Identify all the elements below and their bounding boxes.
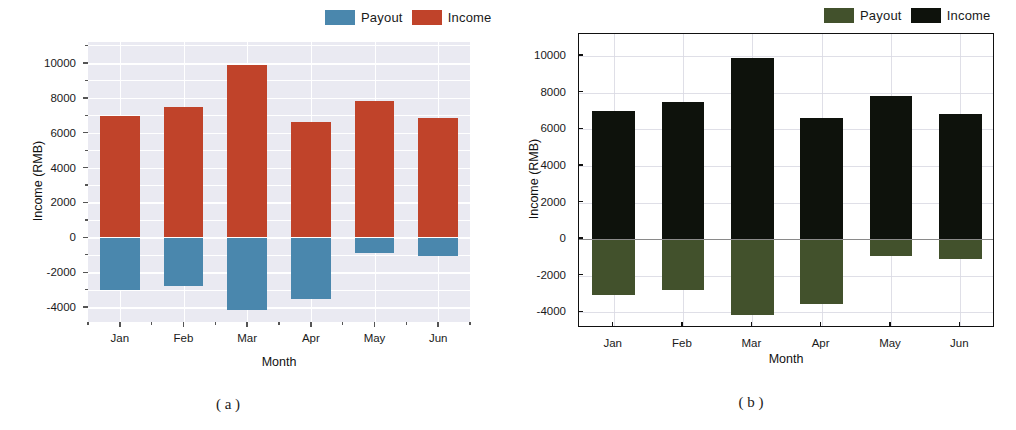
y-tick-mark [578,237,583,238]
y-tick-label: 2000 [50,196,76,208]
y-tick-mark [578,274,583,275]
legend-label-payout: Payout [860,9,902,22]
x-tick-label: Mar [237,332,257,344]
x-tick-mark-minor [215,322,216,325]
x-tick-label: Mar [741,337,761,349]
x-tick-mark-minor [406,322,407,325]
y-tick-label: -2000 [47,266,76,278]
x-tick-mark [681,322,682,327]
legend-b: PayoutIncome [824,8,991,23]
caption-a: ( a ) [216,396,240,413]
gridline-horizontal [579,93,993,94]
y-tick-label: 8000 [540,86,566,98]
y-tick-mark [83,132,88,133]
bar-income-may [870,96,913,239]
gridline-horizontal [88,150,470,151]
zero-baseline [88,237,470,238]
y-tick-mark-minor [85,80,88,81]
y-tick-mark [83,202,88,203]
y-tick-label: -2000 [537,269,566,281]
x-tick-mark [374,322,375,327]
x-tick-label: May [879,337,901,349]
y-tick-mark [578,128,583,129]
legend-item-income[interactable]: Income [911,8,991,23]
y-tick-mark [83,97,88,98]
x-tick-mark [612,322,613,327]
x-tick-mark [437,322,438,327]
bar-payout-mar [227,237,266,309]
gridline-horizontal [579,203,993,204]
bar-income-jun [939,114,982,239]
bar-income-feb [164,107,203,238]
bar-income-feb [662,102,705,239]
bar-payout-apr [291,237,330,299]
y-tick-label: 0 [560,232,566,244]
y-tick-label: 4000 [50,162,76,174]
y-tick-label: 6000 [540,122,566,134]
bar-income-mar [731,58,774,239]
panel-b: PayoutIncome 1000080006000400020000-2000… [508,0,1016,430]
y-tick-mark [578,201,583,202]
plot-area-a [88,42,470,322]
y-tick-mark [578,54,583,55]
legend-swatch-payout-icon [325,10,355,25]
x-tick-mark [820,322,821,327]
legend-item-income[interactable]: Income [412,10,492,25]
gridline-horizontal [88,63,470,65]
gridline-horizontal [88,80,470,81]
x-tick-mark-minor [469,322,470,325]
legend-label-income: Income [448,11,492,24]
legend-label-income: Income [947,9,991,22]
bar-payout-feb [662,239,705,290]
panel-a: PayoutIncome 1000080006000400020000-2000… [0,0,508,430]
legend-item-payout[interactable]: Payout [325,10,403,25]
y-tick-mark [578,311,583,312]
gridline-horizontal [88,98,470,100]
gridline-horizontal [88,185,470,186]
gridline-horizontal [88,45,470,46]
legend-swatch-income-icon [911,8,941,23]
y-tick-mark-minor [85,289,88,290]
x-tick-label: Apr [812,337,830,349]
x-tick-mark [959,322,960,327]
bar-payout-jan [100,237,139,290]
legend-a: PayoutIncome [325,10,492,25]
gridline-horizontal [88,168,470,170]
gridline-horizontal [88,290,470,291]
x-tick-mark [183,322,184,327]
bar-payout-may [870,239,913,255]
bar-income-mar [227,65,266,237]
bar-income-jan [592,111,635,239]
x-tick-label: Feb [174,332,194,344]
bar-payout-apr [800,239,843,304]
legend-item-payout[interactable]: Payout [824,8,902,23]
y-tick-mark [578,91,583,92]
y-tick-label: 2000 [540,196,566,208]
y-tick-label: 4000 [540,159,566,171]
bar-payout-may [355,237,394,253]
bar-income-may [355,101,394,237]
bar-income-apr [291,122,330,237]
x-axis-title-a: Month [199,355,359,369]
y-tick-mark-minor [85,150,88,151]
gridline-horizontal [88,272,470,274]
plot-area-b [578,33,994,327]
bar-payout-mar [731,239,774,315]
bar-payout-feb [164,237,203,286]
x-tick-mark-minor [151,322,152,325]
y-tick-mark-minor [85,45,88,46]
y-tick-label: -4000 [537,305,566,317]
bar-income-jun [418,118,457,238]
y-tick-label: 10000 [534,49,566,61]
x-tick-mark-minor [87,322,88,325]
caption-b: ( b ) [739,394,764,411]
y-tick-mark [83,62,88,63]
y-axis-title-a: Income (RMB) [31,111,45,251]
bar-payout-jun [418,237,457,255]
y-tick-label: 10000 [44,57,76,69]
y-tick-mark-minor [85,115,88,116]
legend-label-payout: Payout [361,11,403,24]
gridline-horizontal [579,276,993,277]
bar-income-apr [800,118,843,239]
x-tick-label: Jan [111,332,130,344]
